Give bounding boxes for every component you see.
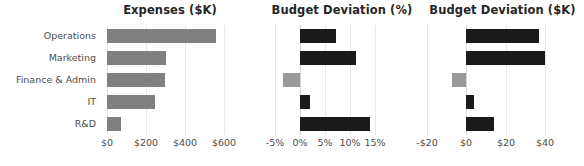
panel-title-budget-deviation-usd: Budget Deviation ($K) xyxy=(425,3,580,17)
bar-deviation-usd-rd xyxy=(466,117,494,131)
multi-panel-bar-chart-figure: Operations Marketing Finance & Admin IT … xyxy=(0,0,584,166)
bar-deviation-pct-it xyxy=(300,95,310,109)
bar-row-finance-admin xyxy=(267,69,417,91)
category-label-rd: R&D xyxy=(75,113,96,135)
bar-deviation-usd-operations xyxy=(466,29,539,43)
xtick-expenses-400: $400 xyxy=(173,137,197,148)
xtick-usd-neg20: -$20 xyxy=(416,137,438,148)
bar-expenses-marketing xyxy=(107,51,166,65)
panel-budget-deviation-usd: Budget Deviation ($K) -$20 $0 xyxy=(425,0,584,166)
bar-row-marketing xyxy=(107,47,233,69)
plot-area-budget-deviation-usd xyxy=(425,25,584,135)
xaxis-ticks-expenses: $0 $200 $400 $600 xyxy=(107,137,233,151)
bar-row-it xyxy=(107,91,233,113)
bar-row-operations xyxy=(425,25,584,47)
panel-title-budget-deviation-pct: Budget Deviation (%) xyxy=(267,3,417,17)
xtick-pct-15: 15% xyxy=(364,137,385,148)
xtick-expenses-200: $200 xyxy=(134,137,158,148)
category-label-operations: Operations xyxy=(44,25,96,47)
xtick-usd-0: $0 xyxy=(460,137,472,148)
bar-deviation-pct-marketing xyxy=(300,51,356,65)
bar-row-finance-admin xyxy=(425,69,584,91)
category-axis-labels: Operations Marketing Finance & Admin IT … xyxy=(0,25,100,135)
bar-row-marketing xyxy=(425,47,584,69)
xtick-usd-40: $40 xyxy=(536,137,554,148)
bar-row-finance-admin xyxy=(107,69,233,91)
bar-row-it xyxy=(425,91,584,113)
xtick-expenses-0: $0 xyxy=(101,137,113,148)
bar-row-operations xyxy=(107,25,233,47)
bar-deviation-pct-rd xyxy=(300,117,370,131)
category-label-finance-admin: Finance & Admin xyxy=(16,69,96,91)
xaxis-ticks-budget-deviation-usd: -$20 $0 $20 $40 xyxy=(425,137,584,151)
xtick-pct-5: 5% xyxy=(317,137,332,148)
bar-deviation-usd-marketing xyxy=(466,51,545,65)
category-label-marketing: Marketing xyxy=(49,47,96,69)
bar-expenses-finance-admin xyxy=(107,73,165,87)
bar-row-operations xyxy=(267,25,417,47)
xtick-pct-neg5: -5% xyxy=(266,137,285,148)
panel-title-expenses: Expenses ($K) xyxy=(105,3,235,17)
bar-row-marketing xyxy=(267,47,417,69)
bar-row-it xyxy=(267,91,417,113)
category-label-it: IT xyxy=(87,91,96,113)
bar-deviation-usd-finance-admin xyxy=(452,73,466,87)
bar-row-rd xyxy=(425,113,584,135)
plot-area-expenses xyxy=(107,25,233,135)
xtick-pct-0: 0% xyxy=(292,137,307,148)
xtick-usd-20: $20 xyxy=(497,137,515,148)
bar-row-rd xyxy=(107,113,233,135)
panel-expenses: Expenses ($K) $0 $200 $ xyxy=(107,0,233,166)
bar-deviation-pct-finance-admin xyxy=(283,73,300,87)
bar-deviation-pct-operations xyxy=(300,29,336,43)
bar-row-rd xyxy=(267,113,417,135)
bar-expenses-rd xyxy=(107,117,121,131)
xtick-pct-10: 10% xyxy=(339,137,360,148)
xaxis-ticks-budget-deviation-pct: -5% 0% 5% 10% 15% xyxy=(267,137,417,151)
bar-deviation-usd-it xyxy=(466,95,474,109)
plot-area-budget-deviation-pct xyxy=(267,25,417,135)
xtick-expenses-600: $600 xyxy=(212,137,236,148)
bar-expenses-operations xyxy=(107,29,216,43)
panel-budget-deviation-pct: Budget Deviation (%) -5% xyxy=(267,0,417,166)
bar-expenses-it xyxy=(107,95,155,109)
